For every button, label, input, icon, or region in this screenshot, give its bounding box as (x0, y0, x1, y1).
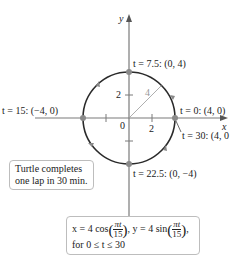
point-t15 (80, 115, 86, 121)
note-box: Turtle completes one lap in 30 min. (9, 160, 94, 190)
note-line-1: Turtle completes (15, 163, 88, 175)
equation-domain: for 0 ≤ t ≤ 30 (72, 239, 194, 251)
leader-line (176, 121, 181, 132)
y-tick-label: 2 (116, 89, 121, 100)
point-t0 (172, 115, 178, 121)
equation-x: x = 4 cos (72, 223, 108, 234)
point-label-t22-5: t = 22.5: (0, −4) (133, 168, 197, 179)
x-tick-label: 2 (149, 123, 154, 134)
frac-den-2: 15 (172, 230, 181, 239)
point-label-t7-5: t = 7.5: (0, 4) (133, 58, 186, 69)
y-axis-arrow-icon (126, 14, 132, 22)
y-axis-label: y (119, 13, 123, 24)
point-t7-5 (126, 69, 132, 75)
point-label-t15: t = 15: (−4, 0) (2, 105, 58, 116)
equation-box: x = 4 cos(πt15), y = 4 sin(πt15), for 0 … (66, 216, 200, 255)
point-label-t0: t = 0: (4, 0) (180, 105, 225, 116)
note-line-2: one lap in 30 min. (15, 175, 88, 187)
point-t22-5 (126, 161, 132, 167)
origin-label: 0 (120, 120, 125, 131)
radius-label: 4 (145, 87, 150, 98)
equation-y: , y = 4 sin (128, 223, 168, 234)
frac-den-1: 15 (113, 230, 122, 239)
point-label-t30: t = 30: (4, 0 (182, 130, 229, 141)
